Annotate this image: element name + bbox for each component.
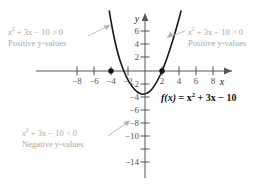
annotation-top-right-line1: x2 + 3x − 10 > 0 [188,27,246,38]
svg-text:6: 6 [135,26,140,36]
function-label: f(x) = x2 + 3x − 10 [161,92,237,103]
parabola-figure: −8 −6 −4 −2 2 4 6 8 6 4 2 −2 −4 −6 −8 −1… [0,0,274,188]
y-axis-label: y [134,13,140,24]
annotation-top-right-line2: Positive y-values [188,38,246,49]
svg-text:2: 2 [160,76,165,86]
svg-text:−4: −4 [106,76,116,86]
annotation-bottom-left-line1-post: + 3x − 10 < 0 [29,128,77,138]
y-axis-arrow [142,13,149,21]
svg-text:4: 4 [135,39,140,49]
annotation-bottom-left: x2 + 3x − 10 < 0 Negative y-values [22,128,84,149]
root-point-left [108,68,113,73]
annotation-top-left-line1-post: + 3x − 10 > 0 [15,27,63,37]
svg-text:−6: −6 [89,76,99,86]
annotation-top-left: x2 + 3x − 10 > 0 Positive y-values [8,27,66,48]
svg-text:−14: −14 [125,157,140,167]
annotation-top-left-line2: Positive y-values [8,38,66,49]
svg-text:2: 2 [135,52,140,62]
svg-text:6: 6 [194,76,199,86]
y-tick-labels: 6 4 2 −2 −4 −6 −8 −10 −14 [125,26,140,167]
svg-text:4: 4 [177,76,182,86]
function-label-body-post: + 3x − 10 [195,92,236,103]
svg-text:−4: −4 [129,92,139,102]
annotation-bottom-left-line2: Negative y-values [22,139,84,150]
svg-text:−8: −8 [72,76,82,86]
svg-text:−6: −6 [129,105,139,115]
leader-arrow-top-right [167,32,174,38]
annotation-top-right: x2 + 3x − 10 > 0 Positive y-values [188,27,246,48]
svg-text:−10: −10 [125,131,140,141]
annotation-bottom-left-line1: x2 + 3x − 10 < 0 [22,128,84,139]
annotation-top-right-line1-post: + 3x − 10 > 0 [195,27,243,37]
function-label-prefix: f(x) [161,92,176,103]
function-label-body-pre: = x [176,92,192,103]
x-axis-label: x [219,76,225,87]
svg-text:−2: −2 [129,79,139,89]
svg-text:−8: −8 [129,118,139,128]
annotation-top-left-line1: x2 + 3x − 10 > 0 [8,27,66,38]
x-axis-arrow [224,68,232,75]
svg-text:8: 8 [211,76,216,86]
root-point-right [159,68,164,73]
